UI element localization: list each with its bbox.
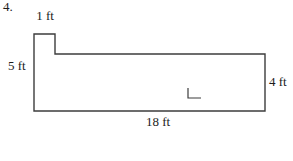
- dimension-label-left-height: 5 ft: [8, 59, 26, 73]
- dimension-label-notch-width: 1 ft: [36, 9, 54, 23]
- shape-drawing: [0, 0, 293, 161]
- right-angle-icon: [188, 88, 201, 98]
- geometry-problem-figure: 4. 1 ft 5 ft 4 ft 18 ft: [0, 0, 293, 161]
- shape-outline: [34, 34, 265, 111]
- dimension-label-right-height: 4 ft: [269, 75, 287, 89]
- dimension-label-bottom-width: 18 ft: [146, 115, 170, 129]
